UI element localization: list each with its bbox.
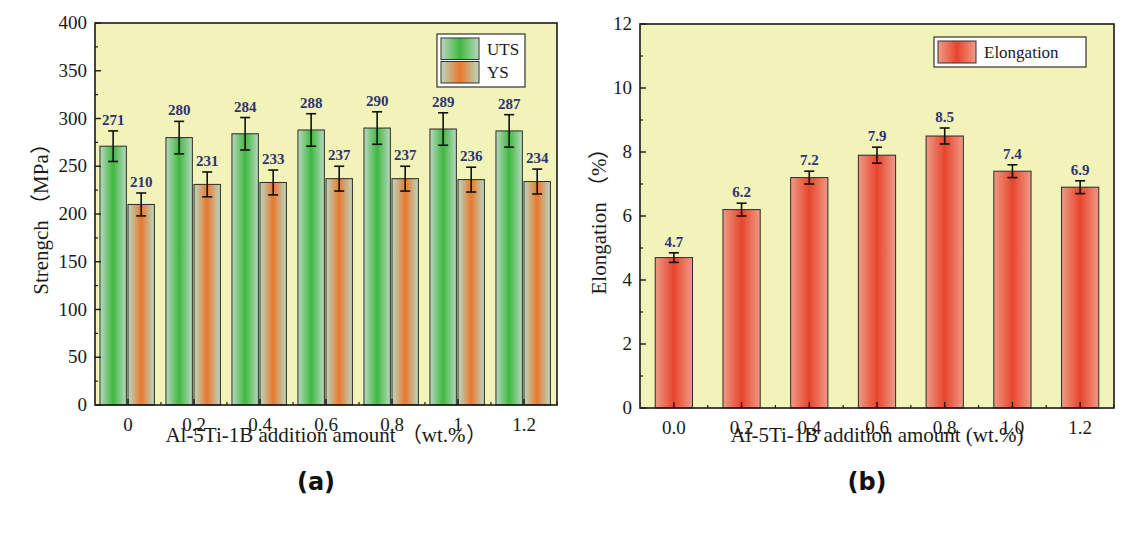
y-tick-label: 100 <box>59 299 88 320</box>
x-tick-label: 0.0 <box>662 417 686 438</box>
legend-label-uts: UTS <box>487 40 519 59</box>
value-label: 271 <box>102 112 125 128</box>
x-axis-title: Al-5Ti-1B addition amount (wt.%) <box>730 423 1023 447</box>
x-tick-label: 1.2 <box>1068 417 1092 438</box>
value-label: 233 <box>262 151 285 167</box>
bar-ys-1_2 <box>524 182 550 405</box>
strength-chart: 2712802842882902892872102312332372372362… <box>29 12 557 496</box>
y-tick-label: 0 <box>78 394 88 415</box>
value-label: 289 <box>432 94 455 110</box>
value-label: 7.2 <box>800 152 819 168</box>
panel-label: (b) <box>847 468 886 496</box>
panel-label: (a) <box>297 468 335 496</box>
legend-swatch-ys <box>441 62 479 84</box>
x-tick-label: 0 <box>123 414 133 435</box>
bar-uts-0_8 <box>364 128 390 405</box>
y-tick-label: 150 <box>59 251 88 272</box>
value-label: 7.4 <box>1003 146 1022 162</box>
x-tick-label: 1.2 <box>512 414 536 435</box>
value-label: 231 <box>196 153 219 169</box>
y-tick-label: 2 <box>623 333 633 354</box>
bar-uts-0_4 <box>232 134 258 405</box>
bar-uts-0_2 <box>166 138 192 405</box>
y-tick-label: 8 <box>623 141 633 162</box>
value-label: 280 <box>168 102 191 118</box>
y-tick-label: 250 <box>59 155 88 176</box>
value-label: 287 <box>498 96 521 112</box>
bar-elongation-1_2 <box>1062 187 1099 408</box>
value-label: 6.9 <box>1071 162 1090 178</box>
y-tick-label: 12 <box>613 13 632 34</box>
bar-ys-1 <box>458 180 484 405</box>
value-label: 290 <box>366 93 389 109</box>
legend-swatch-uts <box>441 38 479 60</box>
y-tick-label: 4 <box>623 269 633 290</box>
bar-uts-1 <box>430 129 456 405</box>
y-tick-label: 300 <box>59 108 88 129</box>
bar-elongation-0_8 <box>926 136 963 408</box>
bar-elongation-1_0 <box>994 171 1031 408</box>
legend-swatch-elongation <box>938 41 976 63</box>
y-tick-label: 0 <box>623 397 633 418</box>
y-tick-label: 350 <box>59 60 88 81</box>
bar-elongation-0_2 <box>723 210 760 408</box>
value-label: 288 <box>300 95 323 111</box>
value-label: 237 <box>394 147 417 163</box>
bar-ys-0 <box>128 204 154 405</box>
y-axis-title: Strengch （MPa） <box>29 133 53 295</box>
x-axis-title: Al-5Ti-1B addition amount （wt.%） <box>165 423 486 447</box>
value-label: 237 <box>328 147 351 163</box>
y-tick-label: 400 <box>59 12 88 33</box>
bar-elongation-0_4 <box>791 178 828 408</box>
bar-elongation-0_0 <box>655 258 692 408</box>
value-label: 8.5 <box>935 109 954 125</box>
value-label: 234 <box>526 150 549 166</box>
y-tick-label: 50 <box>68 346 87 367</box>
y-tick-label: 6 <box>623 205 633 226</box>
legend-label-elongation: Elongation <box>984 43 1059 62</box>
figure-canvas: 2712802842882902892872102312332372372362… <box>0 0 1126 539</box>
value-label: 236 <box>460 148 483 164</box>
bar-ys-0_6 <box>326 179 352 405</box>
elongation-chart: 4.76.27.27.98.57.46.90246810120.00.20.40… <box>587 13 1114 496</box>
y-tick-label: 10 <box>613 77 632 98</box>
bar-ys-0_8 <box>392 179 418 405</box>
legend: Elongation <box>934 37 1086 67</box>
bar-ys-0_4 <box>260 182 286 405</box>
y-tick-label: 200 <box>59 203 88 224</box>
value-label: 4.7 <box>664 234 683 250</box>
bar-uts-1_2 <box>496 131 522 405</box>
value-label: 7.9 <box>868 128 887 144</box>
y-axis-title: Elongation （%） <box>587 138 611 295</box>
bar-ys-0_2 <box>194 184 220 405</box>
value-label: 210 <box>130 174 153 190</box>
bar-uts-0_6 <box>298 130 324 405</box>
value-label: 284 <box>234 99 257 115</box>
bar-uts-0 <box>100 146 126 405</box>
bar-elongation-0_6 <box>858 155 895 408</box>
legend-label-ys: YS <box>487 63 509 82</box>
value-label: 6.2 <box>732 184 751 200</box>
legend: UTSYS <box>437 34 525 87</box>
